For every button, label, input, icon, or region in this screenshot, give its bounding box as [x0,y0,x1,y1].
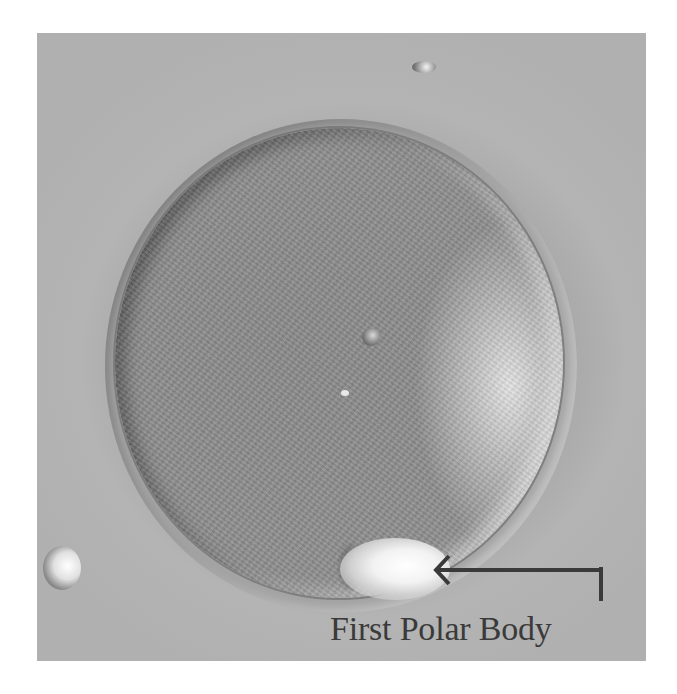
cytoplasm-texture [115,128,563,598]
oocyte-cytoplasm [115,128,563,598]
cell-debris [43,546,81,590]
arrow-leader [599,567,603,601]
polar-body-label: First Polar Body [330,610,552,648]
arrow-shaft [437,568,602,572]
vesicle [341,390,349,396]
vesicle [362,328,380,346]
micrograph-image: First Polar Body [37,33,646,661]
arrow-head-icon [433,554,457,586]
cell-debris [412,61,436,73]
